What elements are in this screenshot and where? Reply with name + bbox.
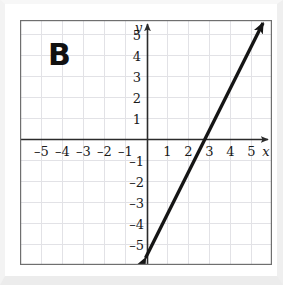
y-tick-label--4: –4 [129, 217, 144, 232]
x-tick-label-5: 5 [247, 144, 255, 159]
x-tick-label-4: 4 [226, 144, 234, 159]
x-tick-label--5: –5 [34, 144, 49, 159]
figure-page: –5 –4 –3 –2 –1 1 2 3 4 5 5 4 3 2 1 –1 –2… [0, 0, 283, 285]
y-tick-label--5: –5 [129, 238, 144, 253]
x-tick-label--3: –3 [76, 144, 91, 159]
y-tick-label-1: 1 [133, 112, 141, 127]
x-tick-label-2: 2 [184, 144, 192, 159]
x-tick-label-1: 1 [163, 144, 171, 159]
y-tick-label-2: 2 [133, 91, 141, 106]
y-tick-label--3: –3 [129, 196, 144, 211]
y-tick-label-4: 4 [133, 49, 141, 64]
x-tick-label--4: –4 [55, 144, 70, 159]
coordinate-graph: –5 –4 –3 –2 –1 1 2 3 4 5 5 4 3 2 1 –1 –2… [20, 20, 272, 265]
x-axis-label: x [262, 144, 270, 159]
panel-label: B [48, 37, 71, 72]
x-tick-label--2: –2 [97, 144, 112, 159]
x-tick-label-3: 3 [205, 144, 213, 159]
graph-canvas: –5 –4 –3 –2 –1 1 2 3 4 5 5 4 3 2 1 –1 –2… [20, 20, 272, 265]
y-axis-label: y [134, 20, 143, 35]
y-tick-label--2: –2 [129, 175, 144, 190]
y-tick-label-3: 3 [133, 70, 141, 85]
y-tick-label--1: –1 [129, 154, 144, 169]
